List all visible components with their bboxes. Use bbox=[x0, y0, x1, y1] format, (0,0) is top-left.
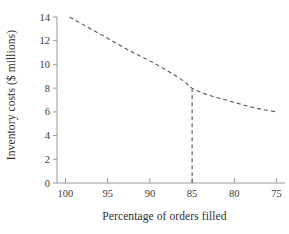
inventory-cost-curve bbox=[70, 17, 277, 112]
x-tick-label: 85 bbox=[187, 188, 198, 199]
y-tick-label: 2 bbox=[45, 154, 50, 165]
x-axis-ticks: 1009590858075 bbox=[58, 178, 282, 199]
x-tick-label: 75 bbox=[271, 188, 282, 199]
x-tick-label: 100 bbox=[58, 188, 74, 199]
y-axis-ticks: 02468101214 bbox=[40, 12, 58, 189]
x-axis-label-text: Percentage of orders filled bbox=[102, 210, 226, 222]
x-tick-label: 95 bbox=[102, 188, 113, 199]
chart-plot-area: 02468101214 1009590858075 bbox=[0, 0, 289, 234]
y-tick-label: 6 bbox=[45, 106, 50, 117]
x-axis-label: Percentage of orders filled bbox=[40, 206, 289, 224]
y-axis-label: Inventory costs ($ millions) bbox=[0, 0, 22, 190]
y-tick-label: 0 bbox=[45, 178, 50, 189]
y-tick-label: 8 bbox=[45, 83, 50, 94]
y-axis-label-text: Inventory costs ($ millions) bbox=[5, 30, 17, 160]
y-tick-label: 12 bbox=[40, 35, 51, 46]
x-tick-label: 90 bbox=[145, 188, 156, 199]
x-tick-label: 80 bbox=[229, 188, 240, 199]
y-tick-label: 4 bbox=[45, 130, 51, 141]
chart-container: 02468101214 1009590858075 Inventory cost… bbox=[0, 0, 289, 234]
y-tick-label: 14 bbox=[40, 12, 51, 23]
y-tick-label: 10 bbox=[40, 59, 51, 70]
